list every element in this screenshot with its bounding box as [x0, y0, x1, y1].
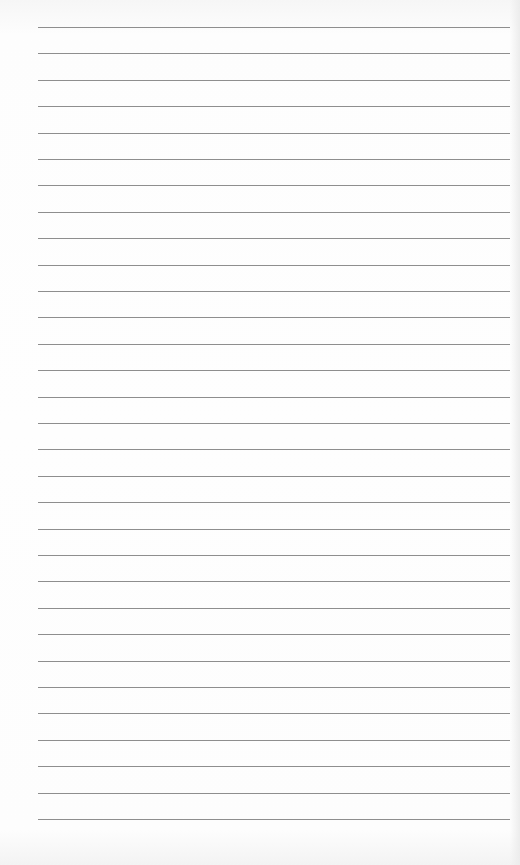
ruled-line: [38, 397, 510, 398]
ruled-line: [38, 449, 510, 450]
ruled-line: [38, 370, 510, 371]
ruled-line: [38, 502, 510, 503]
ruled-line: [38, 159, 510, 160]
ruled-line: [38, 766, 510, 767]
ruled-line: [38, 53, 510, 54]
ruled-line: [38, 581, 510, 582]
ruled-line: [38, 212, 510, 213]
ruled-line: [38, 661, 510, 662]
ruled-line: [38, 344, 510, 345]
ruled-line: [38, 265, 510, 266]
ruled-line: [38, 185, 510, 186]
ruled-line: [38, 106, 510, 107]
ruled-line: [38, 555, 510, 556]
ruled-line: [38, 608, 510, 609]
ruled-line: [38, 713, 510, 714]
ruled-line: [38, 133, 510, 134]
ruled-line: [38, 634, 510, 635]
ruled-line: [38, 291, 510, 292]
ruled-line: [38, 687, 510, 688]
ruled-line: [38, 423, 510, 424]
ruled-line: [38, 238, 510, 239]
ruled-line: [38, 740, 510, 741]
ruled-line: [38, 27, 510, 28]
ruled-line: [38, 317, 510, 318]
lined-paper-page: [0, 0, 520, 865]
ruled-line: [38, 80, 510, 81]
ruled-line: [38, 793, 510, 794]
ruled-line: [38, 529, 510, 530]
ruled-line: [38, 476, 510, 477]
ruled-line: [38, 819, 510, 820]
